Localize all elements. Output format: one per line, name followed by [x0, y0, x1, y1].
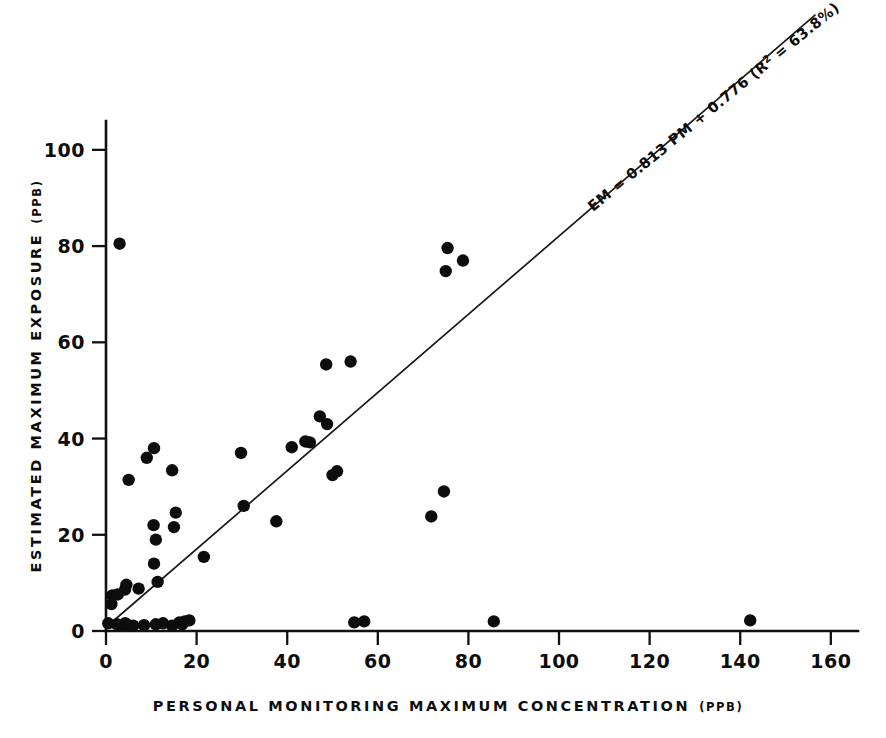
data-point [183, 614, 195, 626]
x-axis-title-group: PERSONAL MONITORING MAXIMUM CONCENTRATIO… [153, 698, 744, 714]
x-tick-group: 020406080100120140160 [99, 631, 851, 672]
y-tick-label: 40 [58, 428, 85, 450]
data-point [238, 500, 250, 512]
data-point [304, 436, 316, 448]
x-axis-title-main: PERSONAL MONITORING MAXIMUM CONCENTRATIO… [153, 698, 690, 714]
y-axis-title: ESTIMATED MAXIMUM EXPOSURE(PPB) [28, 179, 44, 572]
data-point [441, 242, 453, 254]
data-point [358, 615, 370, 627]
data-point [127, 620, 139, 632]
data-point [270, 515, 282, 527]
data-point [438, 485, 450, 497]
data-point [321, 418, 333, 430]
x-tick-label: 0 [99, 650, 113, 672]
data-point [286, 441, 298, 453]
x-tick-label: 140 [720, 650, 761, 672]
data-point [132, 582, 144, 594]
x-tick-label: 40 [273, 650, 300, 672]
regression-equation-annotation: EM = 0.813 PM + 0.776 (R2 = 63.8%) [584, 0, 842, 214]
data-point [440, 265, 452, 277]
data-point [148, 442, 160, 454]
y-axis-title-group: ESTIMATED MAXIMUM EXPOSURE(PPB) [28, 179, 44, 572]
data-point [122, 474, 134, 486]
data-point [168, 521, 180, 533]
axes-group [106, 121, 858, 631]
y-tick-label: 100 [44, 139, 85, 161]
x-tick-label: 80 [455, 650, 482, 672]
data-point [138, 619, 150, 631]
x-tick-label: 100 [538, 650, 579, 672]
data-points-group [102, 237, 756, 631]
x-tick-label: 20 [183, 650, 210, 672]
data-point [148, 557, 160, 569]
data-point [344, 355, 356, 367]
y-tick-group: 020406080100 [44, 139, 106, 642]
x-tick-label: 160 [810, 650, 851, 672]
data-point [113, 237, 125, 249]
data-point [331, 465, 343, 477]
data-point [457, 254, 469, 266]
x-tick-label: 120 [629, 650, 670, 672]
y-tick-label: 20 [58, 524, 85, 546]
data-point [150, 533, 162, 545]
y-axis-title-unit: (PPB) [30, 179, 44, 223]
data-point [166, 464, 178, 476]
data-point [147, 519, 159, 531]
data-point [744, 614, 756, 626]
equation-text: EM = 0.813 PM + 0.776 (R2 = 63.8%) [584, 0, 842, 214]
data-point [151, 576, 163, 588]
x-axis-title-unit: (PPB) [699, 700, 743, 714]
scatter-plot-figure: 020406080100120140160 020406080100 EM = … [0, 0, 886, 738]
equation-prefix: EM = 0.813 PM + 0.776 ( [585, 65, 762, 214]
data-point [170, 506, 182, 518]
data-point [488, 615, 500, 627]
plot-canvas: 020406080100120140160 020406080100 EM = … [0, 0, 886, 738]
data-point [198, 551, 210, 563]
y-tick-label: 0 [71, 620, 85, 642]
y-axis-title-main: ESTIMATED MAXIMUM EXPOSURE [28, 233, 44, 573]
x-tick-label: 60 [364, 650, 391, 672]
equation-r-value: = 63.8% [767, 4, 837, 65]
data-point [120, 579, 132, 591]
y-tick-label: 80 [58, 235, 85, 257]
x-axis-title: PERSONAL MONITORING MAXIMUM CONCENTRATIO… [153, 698, 744, 714]
data-point [320, 358, 332, 370]
y-tick-label: 60 [58, 331, 85, 353]
data-point [235, 447, 247, 459]
data-point [425, 510, 437, 522]
